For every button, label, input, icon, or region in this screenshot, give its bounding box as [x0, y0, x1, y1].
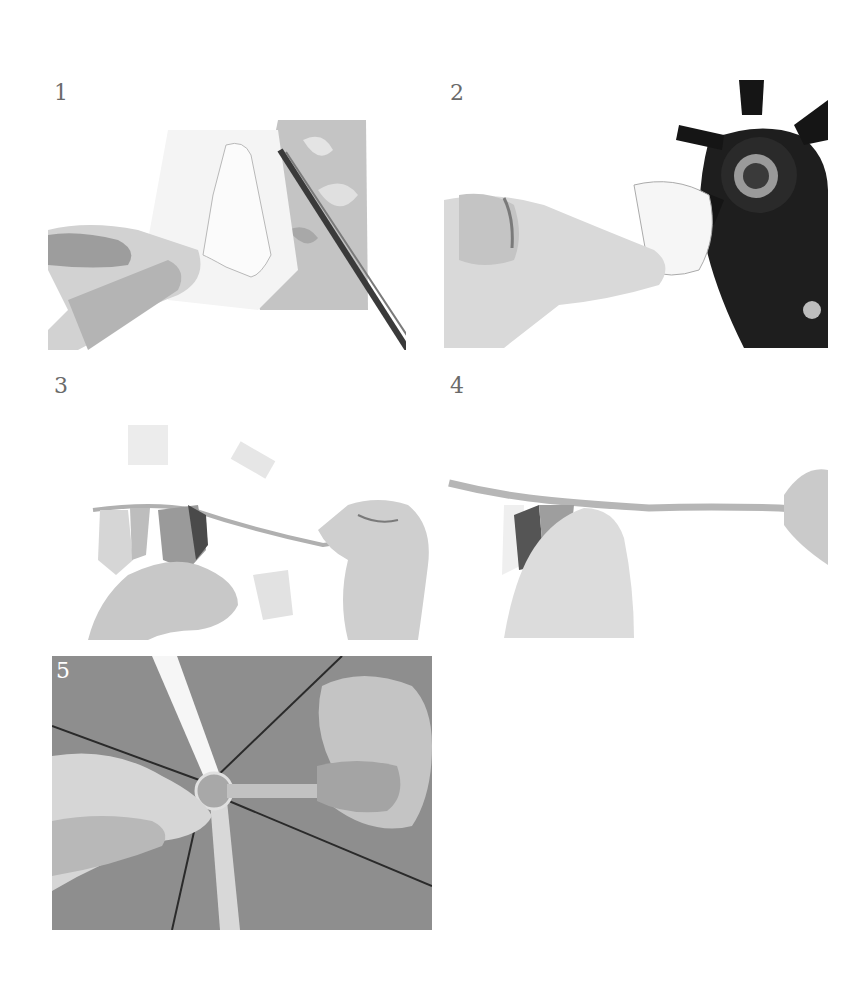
step-2-photo: 2 — [444, 70, 828, 348]
step-number-2: 2 — [450, 80, 464, 105]
hole-punch-image — [444, 70, 828, 348]
step-3-photo: 3 — [48, 365, 432, 640]
threading-pennants-image — [48, 365, 432, 640]
step-number-1: 1 — [54, 80, 68, 105]
tying-umbrella-ribbon-image — [52, 656, 432, 930]
step-1-photo: 1 — [48, 70, 406, 350]
step-5-photo: 5 — [52, 656, 432, 930]
step-4-photo: 4 — [444, 365, 828, 638]
step-number-4: 4 — [450, 373, 464, 398]
step-number-5: 5 — [56, 658, 70, 683]
scissors-cutting-paper-image — [48, 70, 406, 350]
sliding-pennants-image — [444, 365, 828, 638]
step-number-3: 3 — [54, 373, 68, 398]
